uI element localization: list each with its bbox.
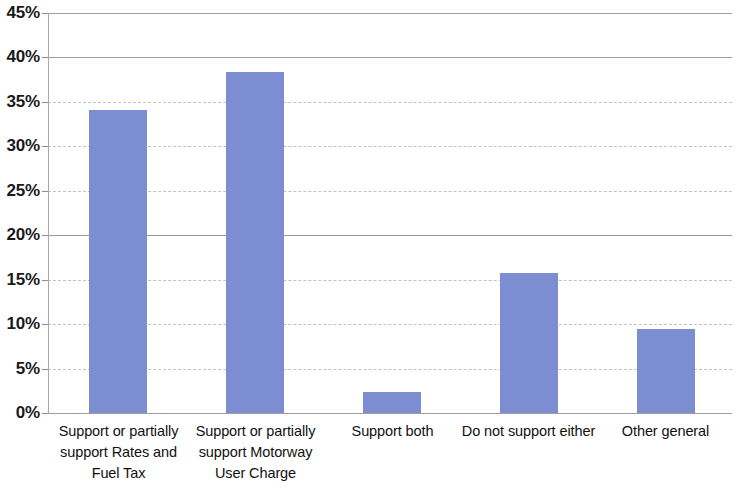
- plot-area: [48, 13, 732, 413]
- y-axis-tick-label: 10%: [0, 315, 40, 332]
- bar: [226, 72, 284, 413]
- x-axis-category-label-line: support Motorway: [187, 442, 324, 463]
- x-axis-category-label-line: Do not support either: [460, 421, 597, 442]
- x-axis-category-label-line: Support or partially: [50, 421, 187, 442]
- x-axis-category-label-line: Support both: [324, 421, 461, 442]
- x-axis-category-label-line: support Rates and: [50, 442, 187, 463]
- y-axis-tick-label: 40%: [0, 48, 40, 65]
- bar: [637, 329, 695, 413]
- x-axis-category-label-line: Fuel Tax: [50, 463, 187, 484]
- y-axis-tick-label: 5%: [0, 360, 40, 377]
- x-axis-category-label: Do not support either: [460, 421, 597, 442]
- bar: [363, 392, 421, 413]
- x-axis-category-label: Support both: [324, 421, 461, 442]
- y-axis-tick-label: 0%: [0, 404, 40, 421]
- bar: [89, 110, 147, 413]
- y-axis-tick-label: 20%: [0, 226, 40, 243]
- y-axis-tick-label: 25%: [0, 182, 40, 199]
- x-axis-line: [48, 413, 732, 414]
- x-axis-category-label: Support or partiallysupport MotorwayUser…: [187, 421, 324, 484]
- y-axis-tick-label: 15%: [0, 271, 40, 288]
- x-axis-category-label: Support or partiallysupport Rates andFue…: [50, 421, 187, 484]
- x-axis-category-label-line: User Charge: [187, 463, 324, 484]
- bar: [500, 273, 558, 413]
- y-axis-tick-label: 30%: [0, 137, 40, 154]
- y-axis-tick-label: 35%: [0, 93, 40, 110]
- bar-chart: 45%40%35%30%25%20%15%10%5%0% Support or …: [0, 0, 746, 490]
- x-axis-category-label-line: Support or partially: [187, 421, 324, 442]
- x-axis-category-label: Other general: [597, 421, 734, 442]
- x-axis-category-label-line: Other general: [597, 421, 734, 442]
- y-axis-tick-label: 45%: [0, 4, 40, 21]
